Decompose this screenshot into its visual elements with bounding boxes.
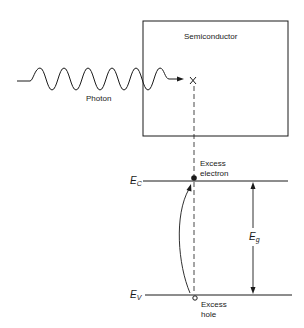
photon-label: Photon — [86, 94, 111, 104]
conduction-band-symbol: EC — [130, 176, 142, 189]
eg-main: E — [249, 231, 256, 242]
ev-main: E — [130, 289, 137, 300]
excitation-arrowhead — [187, 184, 192, 192]
excess-hole-circle — [193, 296, 197, 300]
excess-hole-label: Excess hole — [201, 300, 227, 320]
eg-sub: g — [256, 236, 260, 243]
band-diagram — [0, 0, 304, 328]
absorption-point-marker — [190, 77, 196, 84]
band-gap-symbol: Eg — [249, 232, 260, 245]
ev-sub: V — [137, 294, 142, 301]
band-gap-arrowhead-up — [251, 182, 256, 189]
excess-electron-line2: electron — [200, 169, 228, 179]
ec-sub: C — [137, 180, 142, 187]
excess-electron-label: Excess electron — [200, 159, 228, 179]
excess-hole-line2: hole — [201, 310, 227, 320]
band-gap-arrowhead-down — [251, 287, 256, 294]
semiconductor-label: Semiconductor — [184, 32, 237, 42]
ec-main: E — [130, 175, 137, 186]
photon-arrowhead — [177, 77, 184, 82]
excitation-arrow — [179, 189, 190, 293]
excess-electron-dot — [191, 175, 197, 181]
valence-band-symbol: EV — [130, 290, 141, 303]
photon-wave — [17, 68, 178, 90]
excess-hole-line1: Excess — [201, 300, 227, 310]
excess-electron-line1: Excess — [200, 159, 228, 169]
